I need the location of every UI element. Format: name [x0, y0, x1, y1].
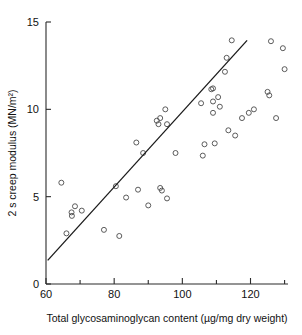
data-point: [202, 142, 207, 147]
data-point: [211, 86, 216, 91]
data-point-markers: [59, 38, 287, 239]
x-tick-label: 100: [173, 288, 191, 300]
x-tick-label: 80: [108, 288, 120, 300]
data-point: [224, 55, 229, 60]
data-point: [64, 231, 69, 236]
data-point: [146, 203, 151, 208]
data-point: [136, 187, 141, 192]
data-point: [217, 104, 222, 109]
y-axis-tick-labels: 051015: [27, 16, 39, 290]
data-point: [163, 107, 168, 112]
data-point: [274, 116, 279, 121]
data-point: [222, 69, 227, 74]
x-tick-label: 60: [40, 288, 52, 300]
x-axis-ticks: [46, 278, 285, 284]
data-point: [212, 141, 217, 146]
y-tick-label: 0: [33, 278, 39, 290]
data-point: [268, 39, 273, 44]
y-tick-label: 5: [33, 191, 39, 203]
scatter-plot-figure: 051015 6080100120 Total glycosaminoglyca…: [0, 0, 302, 335]
data-point: [282, 67, 287, 72]
data-point: [251, 107, 256, 112]
y-axis-ticks: [46, 22, 51, 284]
data-point: [226, 128, 231, 133]
y-tick-label: 10: [27, 103, 39, 115]
data-point: [216, 95, 221, 100]
data-point: [280, 46, 285, 51]
x-tick-label: 120: [241, 288, 259, 300]
chart-canvas: 051015 6080100120 Total glycosaminoglyca…: [0, 0, 302, 335]
data-point: [200, 153, 205, 158]
data-point: [229, 38, 234, 43]
data-point: [233, 133, 238, 138]
data-point: [199, 101, 204, 106]
x-axis-title: Total glycosaminoglycan content (µg/mg d…: [46, 312, 287, 324]
y-axis-title: 2 s creep modulus (MN/m²): [6, 89, 18, 216]
data-point: [72, 204, 77, 209]
data-point: [165, 196, 170, 201]
data-point: [101, 227, 106, 232]
data-point: [69, 213, 74, 218]
data-point: [134, 140, 139, 145]
data-point: [173, 151, 178, 156]
data-point: [79, 208, 84, 213]
data-point: [124, 195, 129, 200]
x-axis-tick-labels: 6080100120: [40, 288, 260, 300]
data-point: [211, 99, 216, 104]
data-point: [246, 110, 251, 115]
plot-axes: [46, 22, 288, 284]
regression-line: [48, 40, 247, 260]
data-point: [117, 233, 122, 238]
data-point: [59, 180, 64, 185]
data-point: [239, 116, 244, 121]
data-point: [158, 116, 163, 121]
y-tick-label: 15: [27, 16, 39, 28]
data-point: [211, 110, 216, 115]
